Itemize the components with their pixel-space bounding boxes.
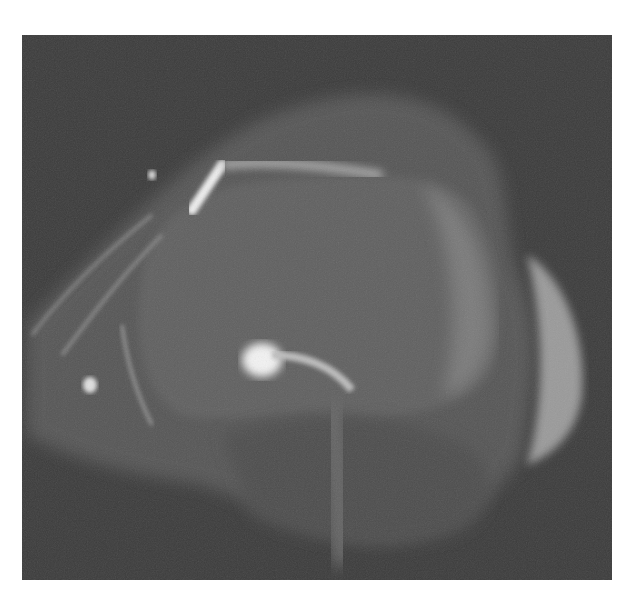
- mri-scan-graphic: [22, 35, 612, 580]
- mri-scan-image: [22, 35, 612, 580]
